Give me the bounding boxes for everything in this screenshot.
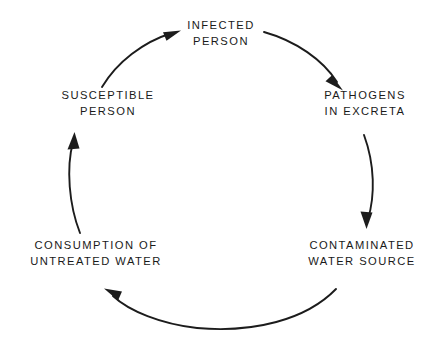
- node-label-contaminated-water-source: CONTAMINATED WATER SOURCE: [284, 238, 440, 269]
- node-label-infected-person: INFECTED PERSON: [146, 18, 296, 49]
- node-label-line: PATHOGENS: [290, 88, 440, 104]
- node-label-pathogens-in-excreta: PATHOGENS IN EXCRETA: [290, 88, 440, 119]
- node-label-line: IN EXCRETA: [290, 104, 440, 120]
- arrow-pathogens-to-contaminated: [361, 135, 373, 229]
- arrow-head-icon: [361, 212, 373, 230]
- node-label-line: PERSON: [146, 34, 296, 50]
- node-label-line: UNTREATED WATER: [6, 254, 186, 270]
- transmission-cycle-svg: [0, 0, 443, 346]
- arrow-head-icon: [104, 289, 122, 301]
- node-label-susceptible-person: SUSCEPTIBLE PERSON: [30, 88, 186, 119]
- arrow-consumption-to-susceptible: [68, 132, 81, 233]
- node-label-line: WATER SOURCE: [284, 254, 440, 270]
- node-label-consumption-of-untreated-water: CONSUMPTION OF UNTREATED WATER: [6, 238, 186, 269]
- arrow-head-icon: [68, 132, 80, 150]
- node-label-line: SUSCEPTIBLE: [30, 88, 186, 104]
- arrow-path: [364, 135, 373, 219]
- node-label-line: PERSON: [30, 104, 186, 120]
- node-label-line: CONTAMINATED: [284, 238, 440, 254]
- arrow-path: [69, 142, 80, 233]
- node-label-line: CONSUMPTION OF: [6, 238, 186, 254]
- node-label-line: INFECTED: [146, 18, 296, 34]
- arrow-contaminated-to-consumption: [104, 289, 336, 330]
- arrow-path: [113, 289, 336, 329]
- diagram-canvas: INFECTED PERSON PATHOGENS IN EXCRETA CON…: [0, 0, 443, 346]
